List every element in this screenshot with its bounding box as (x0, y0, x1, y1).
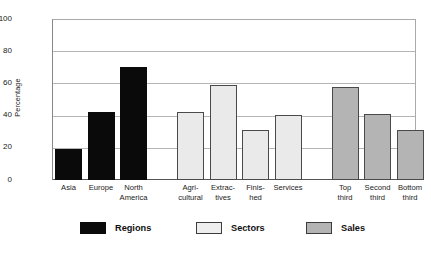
legend-swatch-sales-icon (306, 222, 332, 234)
bars-layer (52, 19, 416, 180)
legend-swatch-regions-icon (80, 222, 106, 234)
bar-chart: Percentage 100 80 60 40 20 0 Asia Europe… (0, 0, 431, 253)
chart-legend: Regions Sectors Sales (52, 222, 416, 246)
bar-services (275, 115, 302, 180)
legend-label-sectors: Sectors (231, 223, 265, 233)
bar-bottom-third (397, 130, 424, 180)
y-tick-label-60: 60 (0, 79, 12, 87)
legend-item-regions: Regions (80, 222, 151, 234)
legend-swatch-sectors-icon (196, 222, 222, 234)
bar-second-third (364, 114, 391, 180)
x-tick-label-bottom-third: Bottom third (384, 183, 431, 202)
bar-north-america (120, 67, 147, 181)
legend-item-sales: Sales (306, 222, 365, 234)
x-axis-labels: Asia Europe North America Agri- cultural… (52, 183, 416, 213)
y-tick-label-0: 0 (0, 176, 12, 184)
bar-extractives (210, 85, 237, 180)
bar-agricultural (177, 112, 204, 180)
x-tick-label-north-america: North America (108, 183, 160, 202)
y-axis-title: Percentage (13, 58, 22, 138)
bar-finished (242, 130, 269, 180)
y-tick-label-20: 20 (0, 143, 12, 151)
legend-label-regions: Regions (115, 223, 151, 233)
legend-item-sectors: Sectors (196, 222, 265, 234)
legend-label-sales: Sales (341, 223, 365, 233)
x-tick-label-services: Services (262, 183, 314, 193)
bar-asia (55, 149, 82, 180)
bar-top-third (332, 87, 359, 180)
y-tick-label-100: 100 (0, 15, 12, 23)
y-tick-label-40: 40 (0, 111, 12, 119)
bar-europe (88, 112, 115, 180)
y-tick-label-80: 80 (0, 47, 12, 55)
